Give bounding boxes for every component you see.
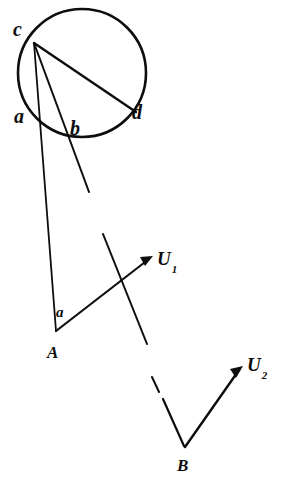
circle-outline xyxy=(18,9,146,137)
label-vector-U1-base: U xyxy=(157,248,171,269)
chord-c-d xyxy=(34,43,136,112)
label-vector-U2-base: U xyxy=(247,354,261,375)
label-angle-a: a xyxy=(56,305,64,320)
label-point-A: A xyxy=(47,344,58,361)
label-point-B: B xyxy=(177,457,188,474)
label-c: c xyxy=(13,19,22,39)
label-b-circle: b xyxy=(70,118,80,138)
vector-B-U2-arrowhead xyxy=(230,366,243,378)
ray-c-b-extended xyxy=(34,43,89,192)
geometry-figure: c a b d a A B U1 U2 xyxy=(0,0,282,499)
ray-c-a-to-A xyxy=(34,43,56,331)
vector-A-U1-shaft xyxy=(56,259,149,331)
label-a-circle: a xyxy=(14,106,24,126)
transversal-dash-2 xyxy=(163,399,184,446)
transversal-dash-1 xyxy=(152,377,159,392)
vector-B-U2-shaft xyxy=(185,370,239,447)
label-vector-U1: U1 xyxy=(157,249,176,272)
label-vector-U1-subscript: 1 xyxy=(172,263,178,275)
label-vector-U2: U2 xyxy=(247,355,266,378)
label-vector-U2-subscript: 2 xyxy=(262,369,268,381)
label-d-circle: d xyxy=(132,102,142,122)
figure-canvas xyxy=(0,0,282,499)
